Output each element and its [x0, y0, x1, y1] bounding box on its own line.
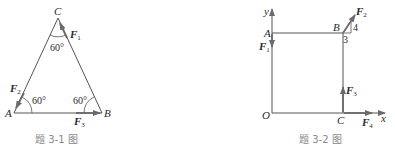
force-label-f3: F3: [345, 84, 357, 98]
force-label-f1: F1: [258, 40, 270, 54]
point-label-c: C: [337, 114, 345, 126]
figure-canvas: C A B 60° 60° 60° F1 F2 F3 题 3-1 图 y x: [0, 0, 395, 157]
point-label-c: C: [54, 5, 62, 17]
angle-label-a: 60°: [32, 95, 46, 106]
point-label-a: A: [4, 107, 12, 119]
caption-3-2: 题 3-2 图: [299, 134, 342, 145]
axis-label-y: y: [263, 5, 269, 17]
angle-arc-a: [22, 97, 32, 113]
force-label-f3: F3: [73, 115, 85, 129]
figure-3-1: C A B 60° 60° 60° F1 F2 F3 题 3-1 图: [4, 5, 111, 145]
caption-3-1: 题 3-1 图: [35, 134, 78, 145]
point-label-a: A: [263, 27, 271, 39]
force-label-f1: F1: [69, 28, 81, 42]
slope-rise-label: 4: [353, 22, 358, 33]
angle-arc-c: [50, 35, 66, 37]
point-label-b: B: [104, 107, 111, 119]
point-label-b: B: [333, 21, 340, 33]
force-label-f2: F2: [355, 5, 367, 19]
force-label-f2: F2: [9, 82, 21, 96]
point-label-o: O: [262, 109, 270, 121]
axis-label-x: x: [380, 112, 386, 124]
figure-3-2: y x A B O C 4 3 F1 F2 F3 F4 题 3-2 图: [258, 5, 386, 145]
force-label-f4: F4: [361, 116, 373, 130]
angle-label-c: 60°: [50, 42, 64, 53]
slope-run-label: 3: [343, 34, 348, 45]
angle-label-b: 60°: [73, 95, 87, 106]
